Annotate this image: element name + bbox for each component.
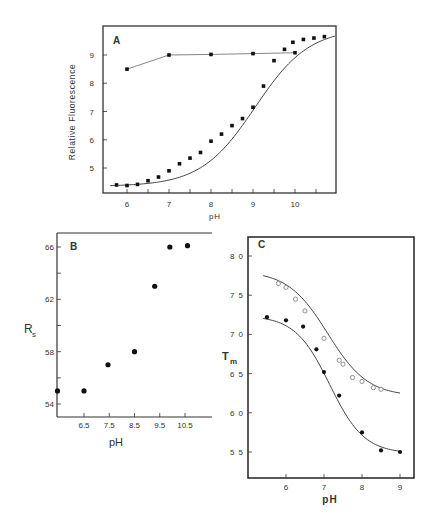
data-point — [167, 244, 172, 249]
data-point — [241, 117, 245, 121]
y-tick-label: 7 0 — [230, 330, 244, 339]
data-point-open — [293, 297, 297, 301]
data-point — [272, 59, 276, 63]
data-point — [199, 151, 203, 155]
data-point-filled — [379, 448, 383, 452]
y-tick-label: 5 5 — [230, 448, 244, 457]
data-point — [125, 184, 129, 188]
panel-c-frame — [248, 237, 414, 478]
x-tick-label: 6.5 — [78, 421, 90, 430]
panel-a-label: A — [113, 35, 120, 46]
fit-curve-open — [263, 276, 400, 393]
data-point-open — [371, 386, 375, 390]
data-point — [132, 349, 137, 354]
y-tick-label: 8 — [90, 79, 95, 88]
data-point — [291, 40, 295, 44]
y-axis-label-subscript: s — [32, 330, 36, 339]
data-point — [262, 84, 266, 88]
data-point — [167, 169, 171, 173]
y-axis-label: T — [222, 350, 229, 362]
data-point-open — [276, 281, 280, 285]
y-tick-label: 7 5 — [230, 291, 244, 300]
y-tick-label: 9 — [90, 51, 95, 60]
data-point-open — [341, 362, 345, 366]
data-point-filled — [265, 315, 269, 319]
data-point-open — [360, 379, 364, 383]
data-point-filled — [322, 370, 326, 374]
x-tick-label: 7 — [167, 200, 172, 209]
data-point — [125, 67, 129, 71]
y-tick-label: 6 — [90, 136, 95, 145]
y-tick-label: 7 — [90, 108, 95, 117]
data-point — [209, 53, 213, 57]
data-point-open — [303, 309, 307, 313]
y-tick-label: 8 0 — [230, 252, 244, 261]
x-tick-label: 10 — [291, 200, 300, 209]
data-point — [209, 139, 213, 143]
x-tick-label: 8.5 — [129, 421, 141, 430]
panel-c-label: C — [258, 239, 265, 250]
data-point — [283, 48, 287, 52]
y-tick-label: 66 — [45, 243, 54, 252]
data-point — [157, 175, 161, 179]
data-point — [167, 53, 171, 57]
y-tick-label: 62 — [45, 295, 54, 304]
data-point-filled — [360, 430, 364, 434]
data-point-open — [337, 358, 341, 362]
data-point-open — [322, 336, 326, 340]
y-tick-label: 54 — [45, 400, 54, 409]
fit-curve-filled — [263, 318, 400, 451]
data-point-open — [350, 375, 354, 379]
data-point — [230, 124, 234, 128]
data-point — [302, 38, 306, 42]
data-point — [188, 156, 192, 160]
x-tick-label: 8 — [209, 200, 214, 209]
data-point-open — [379, 387, 383, 391]
data-point — [136, 183, 140, 187]
y-tick-label: 6 5 — [230, 370, 244, 379]
x-tick-label: 10.5 — [177, 421, 193, 430]
x-tick-label: 8 — [360, 483, 365, 492]
data-point — [105, 362, 110, 367]
y-tick-label: 6 0 — [230, 409, 244, 418]
data-point — [323, 35, 327, 39]
data-point — [178, 162, 182, 166]
x-axis-label: pH — [322, 494, 337, 505]
y-axis-label-subscript: m — [230, 357, 237, 366]
data-point-filled — [337, 393, 341, 397]
data-point — [55, 388, 60, 393]
x-tick-label: 7 — [322, 483, 327, 492]
data-point — [185, 243, 190, 248]
x-axis-label: pH — [109, 436, 123, 448]
panel-a-frame — [103, 26, 336, 193]
data-point — [251, 52, 255, 56]
data-point-filled — [314, 347, 318, 351]
data-point — [152, 284, 157, 289]
panel-b-label: B — [70, 241, 77, 252]
fit-curve-lower — [110, 36, 335, 186]
x-tick-label: 6 — [125, 200, 130, 209]
y-tick-label: 5 — [90, 164, 95, 173]
data-point — [115, 183, 119, 187]
data-point-filled — [301, 324, 305, 328]
x-tick-label: 9 — [251, 200, 256, 209]
data-point — [251, 105, 255, 109]
data-point — [220, 132, 224, 136]
figure: A67891056789pHRelative FluorescenceB5458… — [0, 0, 435, 526]
data-point — [312, 36, 316, 40]
x-axis-label: pH — [209, 212, 221, 221]
data-point-filled — [284, 318, 288, 322]
x-tick-label: 9.5 — [154, 421, 166, 430]
x-tick-label: 6 — [284, 483, 289, 492]
data-point-open — [284, 285, 288, 289]
y-tick-label: 58 — [45, 348, 54, 357]
x-tick-label: 9 — [398, 483, 403, 492]
x-tick-label: 7.5 — [104, 421, 116, 430]
data-point — [81, 388, 86, 393]
data-point — [293, 51, 297, 55]
data-point — [146, 179, 150, 183]
y-axis-label: Relative Fluorescence — [67, 64, 77, 161]
data-point-filled — [398, 450, 402, 454]
